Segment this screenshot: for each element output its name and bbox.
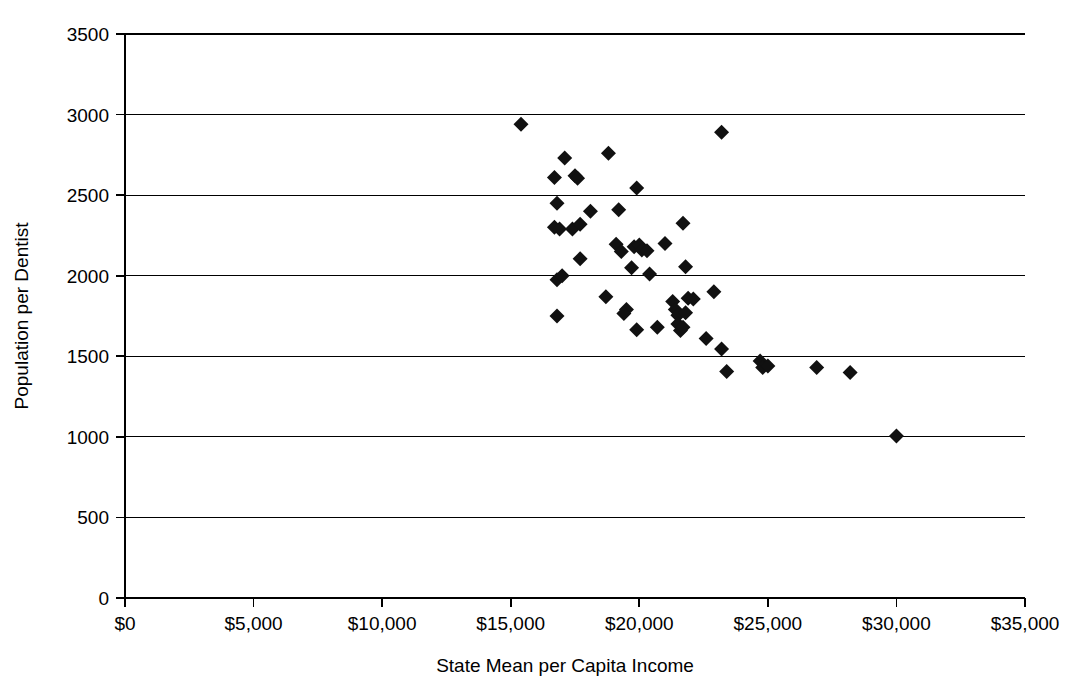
- data-point: [658, 236, 673, 251]
- gridlines: [125, 34, 1025, 517]
- data-point: [611, 202, 626, 217]
- data-point: [809, 360, 824, 375]
- scatter-chart: 0500100015002000250030003500 $0$5,000$10…: [0, 0, 1081, 687]
- y-tick-label: 500: [77, 507, 109, 528]
- y-axis-title: Population per Dentist: [11, 222, 32, 410]
- x-axis-title: State Mean per Capita Income: [436, 655, 694, 676]
- data-point: [629, 322, 644, 337]
- x-tick-label: $30,000: [862, 613, 931, 634]
- x-tick-label: $20,000: [605, 613, 674, 634]
- x-tick-label: $15,000: [476, 613, 545, 634]
- x-tick-label: $35,000: [991, 613, 1060, 634]
- y-tick-label: 1500: [67, 346, 109, 367]
- data-point: [514, 117, 529, 132]
- data-point: [573, 251, 588, 266]
- x-tick-label: $5,000: [225, 613, 283, 634]
- chart-canvas: 0500100015002000250030003500 $0$5,000$10…: [0, 0, 1081, 687]
- y-tick-labels: 0500100015002000250030003500: [67, 24, 109, 609]
- x-axis-ticks: [125, 598, 1025, 607]
- data-point: [843, 365, 858, 380]
- data-point: [550, 196, 565, 211]
- data-point: [714, 125, 729, 140]
- y-tick-label: 2000: [67, 266, 109, 287]
- data-point: [629, 180, 644, 195]
- data-point: [889, 429, 904, 444]
- data-point: [719, 364, 734, 379]
- data-point: [550, 309, 565, 324]
- y-tick-label: 3000: [67, 105, 109, 126]
- x-tick-label: $25,000: [734, 613, 803, 634]
- data-point: [547, 170, 562, 185]
- y-tick-label: 2500: [67, 185, 109, 206]
- data-point: [557, 151, 572, 166]
- y-tick-label: 3500: [67, 24, 109, 45]
- data-point: [624, 260, 639, 275]
- data-point: [598, 289, 613, 304]
- y-tick-label: 1000: [67, 427, 109, 448]
- data-point: [714, 342, 729, 357]
- data-point: [601, 146, 616, 161]
- x-tick-label: $0: [114, 613, 135, 634]
- data-points: [514, 117, 904, 444]
- data-point: [699, 331, 714, 346]
- data-point: [583, 204, 598, 219]
- data-point: [676, 216, 691, 231]
- data-point: [678, 259, 693, 274]
- y-tick-label: 0: [98, 588, 109, 609]
- x-tick-labels: $0$5,000$10,000$15,000$20,000$25,000$30,…: [114, 613, 1059, 634]
- y-axis-ticks: [116, 34, 125, 598]
- data-point: [650, 320, 665, 335]
- data-point: [706, 284, 721, 299]
- x-tick-label: $10,000: [348, 613, 417, 634]
- data-point: [642, 267, 657, 282]
